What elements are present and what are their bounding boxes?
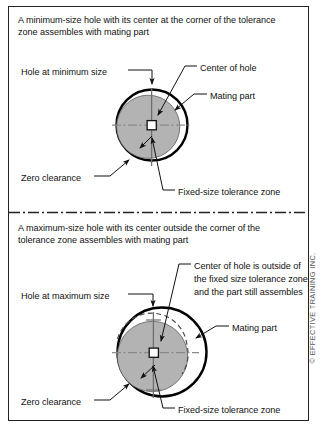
label-fixed-size-tolerance-zone: Fixed-size tolerance zone xyxy=(178,404,280,416)
label-mating-part: Mating part xyxy=(210,90,255,102)
fixed-size-tolerance-zone-square xyxy=(147,121,156,130)
label-hole-at-minimum-size: Hole at minimum size xyxy=(21,66,107,78)
label-center-of-hole: Center of hole xyxy=(200,62,256,74)
fixed-size-tolerance-zone-square xyxy=(149,348,158,357)
label-zero-clearance: Zero clearance xyxy=(21,396,81,408)
label-center-of-hole-outside: Center of hole is outside of the fixed s… xyxy=(194,260,312,300)
figure-minimum-size-hole xyxy=(94,66,207,190)
leader-hole-maximum-size xyxy=(128,294,153,306)
diagram-canvas xyxy=(0,0,333,429)
panel-caption-maximum: A maximum-size hole with its center outs… xyxy=(18,222,293,247)
panel-caption-minimum: A minimum-size hole with its center at t… xyxy=(18,14,293,39)
leader-zero-clearance xyxy=(94,160,129,176)
label-zero-clearance: Zero clearance xyxy=(21,172,81,184)
label-hole-at-maximum-size: Hole at maximum size xyxy=(21,290,109,302)
figure-page: A minimum-size hole with its center at t… xyxy=(0,0,333,429)
leader-hole-minimum-size xyxy=(128,70,152,84)
label-mating-part: Mating part xyxy=(232,322,277,334)
leader-zero-clearance xyxy=(94,384,129,400)
label-fixed-size-tolerance-zone: Fixed-size tolerance zone xyxy=(178,186,280,198)
copyright-notice: © EFFECTIVE TRAINING INC. xyxy=(308,246,317,364)
